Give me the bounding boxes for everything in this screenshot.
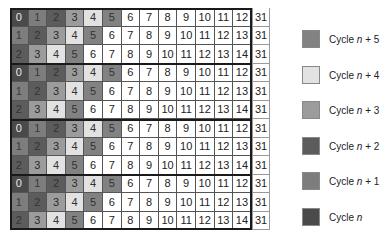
- grid-cell: 4: [66, 193, 85, 212]
- grid-cell: 11: [215, 8, 234, 27]
- grid-cell: 11: [196, 193, 215, 212]
- legend-swatch: [302, 66, 320, 84]
- group-divider: [10, 174, 252, 176]
- grid-cell-final: 31: [252, 212, 271, 231]
- grid-cell: 9: [159, 193, 178, 212]
- grid-cell: 10: [159, 212, 178, 231]
- grid-cell: 11: [196, 138, 215, 157]
- grid-cell: 9: [140, 212, 159, 231]
- grid-cell: 7: [140, 175, 159, 194]
- grid-cell: 10: [177, 27, 196, 46]
- grid-cell: 8: [122, 101, 141, 120]
- grid-cell: 3: [29, 212, 48, 231]
- grid-cell: 2: [10, 156, 29, 175]
- grid-cell: 3: [47, 193, 66, 212]
- grid-cell: 11: [177, 101, 196, 120]
- grid-cell: 8: [122, 45, 141, 64]
- grid-cell: 7: [140, 8, 159, 27]
- grid-cell: 9: [159, 27, 178, 46]
- legend-label: Cycle n + 5: [329, 34, 379, 45]
- legend-label: Cycle n: [329, 212, 362, 223]
- grid-cell: 11: [196, 27, 215, 46]
- grid-cell: 5: [103, 175, 122, 194]
- grid-cell: 9: [177, 64, 196, 83]
- grid-cell-final: 31: [252, 101, 271, 120]
- grid-cell: 6: [122, 8, 141, 27]
- grid-cell: 7: [103, 156, 122, 175]
- grid-cell: 1: [29, 64, 48, 83]
- grid-cell: 2: [29, 82, 48, 101]
- grid-cell-final: 31: [252, 45, 271, 64]
- grid-cell: 9: [159, 138, 178, 157]
- grid-cell: 11: [177, 156, 196, 175]
- grid-cell: 9: [140, 101, 159, 120]
- grid-cell: 4: [84, 8, 103, 27]
- grid-cell: 8: [140, 82, 159, 101]
- grid-cell: 0: [10, 119, 29, 138]
- grid-cell: 8: [159, 8, 178, 27]
- grid-cell: 3: [66, 119, 85, 138]
- grid-cell: 11: [215, 64, 234, 83]
- grid-cell: 11: [196, 82, 215, 101]
- grid-cell: 12: [215, 82, 234, 101]
- grid-cell-final: 31: [252, 138, 271, 157]
- legend-swatch: [302, 101, 320, 119]
- grid-cell-final: 31: [252, 119, 271, 138]
- grid-cell: 3: [29, 45, 48, 64]
- grid-cell: 6: [122, 64, 141, 83]
- legend-item: Cycle n + 3: [302, 101, 388, 119]
- grid-cell: 12: [215, 193, 234, 212]
- grid-cell: 3: [66, 64, 85, 83]
- grid-cell: 4: [66, 82, 85, 101]
- grid-cell: 12: [196, 45, 215, 64]
- grid-cell-final: 31: [252, 64, 271, 83]
- grid-cell: 3: [66, 175, 85, 194]
- grid-cell: 13: [215, 45, 234, 64]
- grid-cell: 7: [140, 119, 159, 138]
- legend-swatch: [302, 208, 320, 226]
- grid-cell: 9: [177, 119, 196, 138]
- grid-cell: 2: [10, 101, 29, 120]
- grid-cell: 6: [84, 212, 103, 231]
- grid-cell: 0: [10, 64, 29, 83]
- grid-cell: 13: [215, 101, 234, 120]
- grid-cell: 10: [196, 175, 215, 194]
- legend-item: Cycle n + 2: [302, 137, 388, 155]
- grid-cell: 3: [47, 138, 66, 157]
- grid-cell: 12: [196, 212, 215, 231]
- grid-cell: 4: [47, 101, 66, 120]
- grid-cell: 7: [140, 64, 159, 83]
- legend-swatch: [302, 137, 320, 155]
- grid-cell: 11: [177, 45, 196, 64]
- legend-label: Cycle n + 3: [329, 105, 379, 116]
- legend-item: Cycle n + 4: [302, 66, 388, 84]
- grid-cell: 8: [159, 175, 178, 194]
- legend-item: Cycle n + 5: [302, 30, 388, 48]
- grid-cell: 4: [84, 175, 103, 194]
- grid-cell: 6: [103, 82, 122, 101]
- grid-cell: 9: [159, 82, 178, 101]
- grid-cell: 4: [66, 138, 85, 157]
- grid-cell: 5: [66, 156, 85, 175]
- grid-cell: 8: [122, 156, 141, 175]
- grid-cell: 2: [47, 175, 66, 194]
- grid-cell: 12: [233, 64, 252, 83]
- grid-cell: 2: [29, 27, 48, 46]
- grid-cell: 8: [122, 212, 141, 231]
- grid-cell: 10: [177, 193, 196, 212]
- grid-cell: 1: [10, 193, 29, 212]
- grid-cell: 6: [84, 45, 103, 64]
- grid-cell: 6: [84, 101, 103, 120]
- grid-cell: 6: [103, 27, 122, 46]
- grid-cell: 5: [84, 193, 103, 212]
- grid-cell: 2: [29, 138, 48, 157]
- grid-cell: 7: [122, 138, 141, 157]
- grid-cell: 12: [196, 156, 215, 175]
- grid-cell: 4: [66, 27, 85, 46]
- grid-cell: 8: [140, 27, 159, 46]
- grid-cell: 13: [215, 212, 234, 231]
- grid-cell: 6: [122, 175, 141, 194]
- grid-cell: 10: [177, 82, 196, 101]
- grid-cell: 12: [215, 27, 234, 46]
- grid-cell: 5: [66, 212, 85, 231]
